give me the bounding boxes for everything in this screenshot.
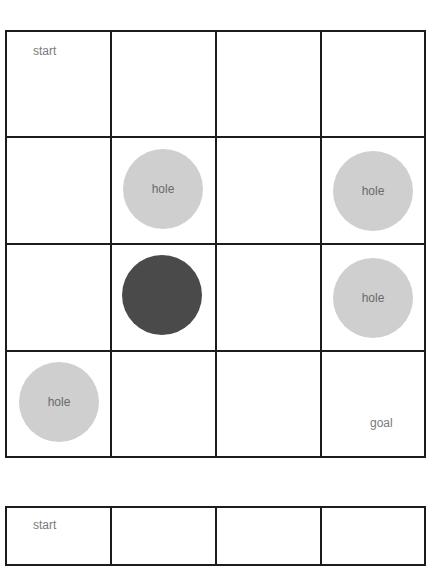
hole-r2-c3: hole: [333, 258, 413, 338]
hole-label: hole: [152, 182, 175, 196]
start-label: start: [33, 518, 56, 532]
start-label: start: [33, 44, 56, 58]
grid-line: [215, 508, 217, 564]
hole-label: hole: [48, 395, 71, 409]
grid-line: [320, 508, 322, 564]
frozen-lake-grid-2: start: [5, 506, 426, 566]
frozen-lake-grid-1: start goal hole hole hole hole: [5, 30, 426, 458]
agent-marker: [122, 255, 202, 335]
grid-line: [110, 508, 112, 564]
hole-label: hole: [362, 184, 385, 198]
grid-line: [7, 136, 424, 138]
hole-label: hole: [362, 291, 385, 305]
goal-label: goal: [370, 416, 393, 430]
hole-r1-c3: hole: [333, 151, 413, 231]
hole-r1-c1: hole: [123, 149, 203, 229]
grid-line: [7, 350, 424, 352]
grid-line: [7, 243, 424, 245]
hole-r3-c0: hole: [19, 362, 99, 442]
